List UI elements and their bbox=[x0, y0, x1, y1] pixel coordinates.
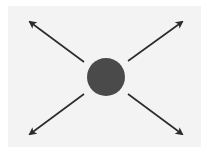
arrow-up-right-icon bbox=[128, 22, 182, 61]
arrow-down-right-icon bbox=[128, 94, 182, 134]
arrow-up-left-icon bbox=[30, 22, 84, 62]
center-circle bbox=[87, 58, 125, 96]
diagram-canvas bbox=[0, 0, 207, 153]
diagram-svg bbox=[0, 0, 207, 153]
arrow-down-left-icon bbox=[30, 94, 84, 134]
